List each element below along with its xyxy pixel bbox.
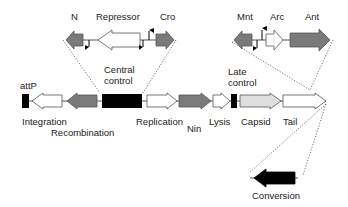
label-capsid: Capsid [241,116,271,127]
label-recombination: Recombination [51,127,114,138]
gene-conversion-arrow [254,169,295,187]
label-cro: Cro [160,11,175,22]
label-central-control-2: control [104,75,133,86]
gene-cro-arrow [156,31,174,49]
label-mnt: Mnt [237,11,253,22]
gene-ant-arrow [290,29,330,51]
gene-nin-arrow [179,93,211,109]
inset-immunity-region: N Repressor Cro [66,11,175,50]
gene-replication-arrow [147,93,177,109]
label-ant: Ant [305,11,320,22]
label-arc: Arc [270,11,285,22]
label-late-control-2: control [228,77,257,88]
label-conversion: Conversion [252,190,300,201]
label-tail: Tail [283,116,297,127]
late-control-box [231,94,237,108]
gene-recombination-arrow [67,93,97,109]
gene-mnt-arrow [234,31,252,49]
promoter-flag-icon [253,40,257,51]
gene-capsid-arrow [240,93,281,109]
gene-tail-arrow [283,93,326,109]
zoom-line [249,104,326,173]
label-central-control-1: Central [104,64,135,75]
label-attp: attP [20,80,37,91]
gene-n-arrow [66,31,83,49]
gene-integration-arrow [32,93,62,109]
gene-arc-arrow [266,30,283,50]
label-lysis: Lysis [209,116,231,127]
label-integration: Integration [22,116,67,127]
inset-conversion-region: Conversion [250,169,300,201]
label-replication: Replication [136,116,183,127]
central-control-box [102,94,142,108]
zoom-line [63,40,100,93]
label-nin: Nin [187,123,201,134]
gene-repressor-arrow [98,30,140,50]
label-n: N [71,11,78,22]
gene-lysis-arrow [213,93,230,109]
label-late-control-1: Late [228,66,247,77]
zoom-line [303,104,326,175]
promoter-flag-icon [149,28,154,40]
label-repressor: Repressor [96,11,140,22]
zoom-line [143,40,176,93]
diagram-canvas: N Repressor Cro Mnt Arc Ant [0,0,348,207]
main-genome-row: attP Central control Late control Integr… [20,64,326,138]
inset-antirepressor-region: Mnt Arc Ant [234,11,330,51]
gene-attp-box [22,94,29,108]
phage-genome-diagram: N Repressor Cro Mnt Arc Ant [0,0,348,207]
promoter-flag-icon [85,40,89,50]
